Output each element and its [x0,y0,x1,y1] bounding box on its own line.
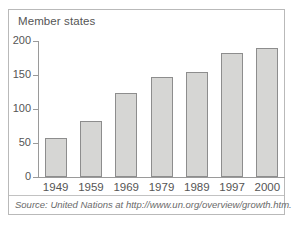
bar [221,53,243,177]
y-tick-label-text: 50 [1,137,31,148]
bar [115,93,137,177]
source-divider [9,195,284,196]
y-tick-label: 0 [0,171,31,183]
source-note: Source: United Nations at http://www.un.… [15,199,292,210]
y-tick-label: 200 [0,35,31,47]
y-tick-label: 50 [0,137,31,149]
bar [256,48,278,177]
y-tick [33,143,39,144]
y-tick [33,109,39,110]
bar [151,77,173,177]
source-value: United Nations at http://www.un.org/over… [48,199,292,210]
bar [80,121,102,177]
bar [186,72,208,177]
y-tick [33,41,39,42]
y-tick [33,75,39,76]
y-tick-label-text: 100 [1,103,31,114]
chart-title: Member states [18,15,95,27]
y-tick-label-text: 0 [1,171,31,182]
bar [45,138,67,177]
y-tick-label-text: 150 [1,69,31,80]
chart-figure: Member states 050100150200 1949195919691… [0,0,294,225]
x-axis-line [38,177,285,178]
y-tick-label: 150 [0,69,31,81]
y-tick [33,177,39,178]
y-tick-label: 100 [0,103,31,115]
x-tick-label: 2000 [245,181,289,193]
source-label: Source: [15,199,48,210]
y-tick-label-text: 200 [1,35,31,46]
